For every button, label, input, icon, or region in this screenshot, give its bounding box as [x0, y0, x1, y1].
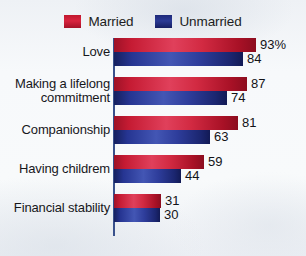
plot-area: Love 93% 84 Making a lifelong commitment… [0, 36, 306, 241]
bar-value-unmarried-love: 84 [243, 52, 261, 66]
bar-married-children: 59 [114, 155, 204, 169]
bar-group-financial-stability: Financial stability 31 30 [0, 194, 306, 223]
grouped-bar-chart: Married Unmarried Love 93% 84 [0, 0, 306, 256]
chart-legend: Married Unmarried [0, 14, 306, 29]
legend-item-unmarried: Unmarried [155, 14, 241, 29]
bar-value-married-financial-stability: 31 [161, 194, 179, 208]
bar-group-love: Love 93% 84 [0, 38, 306, 67]
legend-swatch-married-icon [64, 15, 81, 28]
bar-married-financial-stability: 31 [114, 194, 161, 208]
category-label-line: Financial stability [0, 201, 110, 215]
category-label-children: Having childrem [0, 162, 110, 176]
category-label-line: Companionship [0, 123, 110, 137]
bar-value-unmarried-commitment: 74 [227, 91, 245, 105]
category-label-line: commitment [0, 91, 110, 105]
bar-value-married-companionship: 81 [238, 116, 256, 130]
legend-label-married: Married [88, 14, 133, 29]
bar-unmarried-love: 84 [114, 52, 243, 66]
legend-swatch-unmarried-icon [155, 15, 172, 28]
category-label-love: Love [0, 45, 110, 59]
legend-label-unmarried: Unmarried [179, 14, 241, 29]
category-label-line: Making a lifelong [0, 77, 110, 91]
bar-value-unmarried-children: 44 [181, 169, 199, 183]
category-label-commitment: Making a lifelong commitment [0, 77, 110, 104]
legend-item-married: Married [64, 14, 133, 29]
bar-married-companionship: 81 [114, 116, 238, 130]
bar-married-love: 93% [114, 38, 256, 52]
bar-unmarried-children: 44 [114, 169, 181, 183]
bar-value-married-children: 59 [204, 155, 222, 169]
category-label-line: Love [0, 45, 110, 59]
bar-group-companionship: Companionship 81 63 [0, 116, 306, 145]
bar-value-unmarried-companionship: 63 [210, 130, 228, 144]
category-label-companionship: Companionship [0, 123, 110, 137]
bar-value-unmarried-financial-stability: 30 [160, 208, 178, 222]
bar-value-married-love: 93% [256, 38, 286, 52]
bar-group-commitment: Making a lifelong commitment 87 74 [0, 77, 306, 106]
category-label-line: Having childrem [0, 162, 110, 176]
bar-married-commitment: 87 [114, 77, 247, 91]
bar-unmarried-financial-stability: 30 [114, 208, 160, 222]
bar-value-married-commitment: 87 [247, 77, 265, 91]
bar-group-children: Having childrem 59 44 [0, 155, 306, 184]
bar-unmarried-commitment: 74 [114, 91, 227, 105]
category-label-financial-stability: Financial stability [0, 201, 110, 215]
bar-unmarried-companionship: 63 [114, 130, 210, 144]
